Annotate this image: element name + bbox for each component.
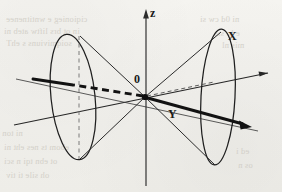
z-axis-arrowhead (143, 9, 149, 19)
right-cone-base-ellipse (197, 28, 238, 166)
left-cone-base-ellipse (45, 32, 102, 162)
X-axis-hidden-thick-dashed (74, 85, 143, 96)
origin-label: 0 (134, 73, 140, 85)
y-axis-hidden-dashed (147, 82, 214, 96)
origin-point (142, 94, 148, 100)
y-axis-arrowhead (259, 71, 269, 76)
z-axis-label: z (150, 7, 155, 19)
double-cone-figure (0, 0, 282, 192)
X-axis-arrowhead (239, 121, 252, 130)
right-cone-generator-top (145, 32, 221, 97)
Y-upper-axis-label: Y (168, 108, 177, 120)
left-cone-generator-bottom (80, 97, 145, 159)
X-upper-axis-label: X (228, 30, 237, 42)
